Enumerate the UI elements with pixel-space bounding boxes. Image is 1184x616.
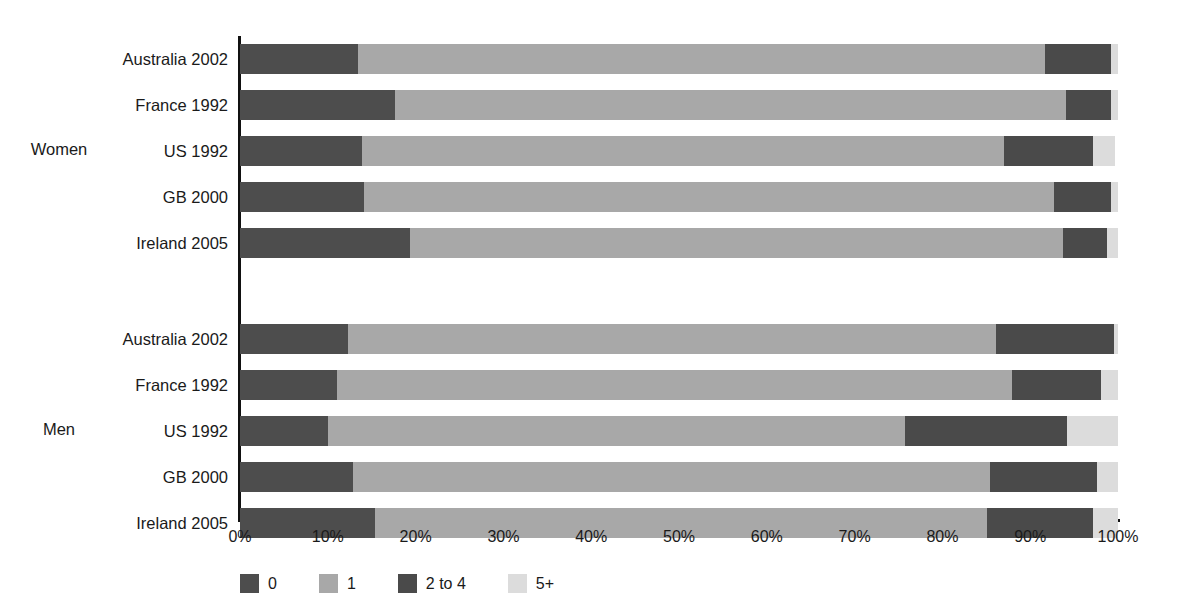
bar-segment: [240, 44, 358, 74]
bar-row: [240, 44, 1118, 74]
legend-swatch-icon: [319, 574, 338, 593]
legend-item[interactable]: 2 to 4: [398, 574, 466, 593]
legend-swatch-icon: [240, 574, 259, 593]
legend-label: 2 to 4: [426, 575, 466, 593]
bar-segment: [1066, 90, 1111, 120]
x-tick-label: 60%: [751, 528, 783, 546]
bar-segment: [1012, 370, 1102, 400]
legend-label: 1: [347, 575, 356, 593]
legend-item[interactable]: 0: [240, 574, 277, 593]
category-label: France 1992: [0, 370, 228, 400]
x-tick-label: 100%: [1098, 528, 1139, 546]
category-label: Ireland 2005: [0, 228, 228, 258]
x-tick-label: 70%: [839, 528, 871, 546]
bar-segment: [240, 370, 337, 400]
bar-segment: [395, 90, 1067, 120]
legend-item[interactable]: 1: [319, 574, 356, 593]
bar-row: [240, 462, 1118, 492]
bar-segment: [1067, 416, 1118, 446]
bar-segment: [240, 416, 328, 446]
legend-swatch-icon: [398, 574, 417, 593]
category-label: GB 2000: [0, 182, 228, 212]
chart-legend: 012 to 45+: [240, 574, 596, 593]
x-tick-label: 20%: [400, 528, 432, 546]
bar-segment: [1054, 182, 1111, 212]
bar-segment: [410, 228, 1062, 258]
category-label: Australia 2002: [0, 44, 228, 74]
bar-segment: [996, 324, 1114, 354]
bar-segment: [240, 90, 395, 120]
bar-segment: [1045, 44, 1111, 74]
category-label: US 1992: [0, 416, 228, 446]
category-label: Australia 2002: [0, 324, 228, 354]
bar-segment: [240, 136, 362, 166]
bar-segment: [362, 136, 1004, 166]
x-tick-label: 0%: [228, 528, 251, 546]
bar-segment: [1101, 370, 1118, 400]
bar-segment: [240, 508, 375, 538]
legend-item[interactable]: 5+: [508, 574, 554, 593]
bar-segment: [1097, 462, 1118, 492]
bar-segment: [1004, 136, 1093, 166]
bar-row: [240, 228, 1118, 258]
bar-segment: [240, 182, 364, 212]
bar-segment: [240, 324, 348, 354]
x-tick-label: 40%: [575, 528, 607, 546]
plot-area: [240, 36, 1118, 520]
x-tick-label: 90%: [1014, 528, 1046, 546]
bar-segment: [240, 462, 353, 492]
category-label: US 1992: [0, 136, 228, 166]
legend-label: 0: [268, 575, 277, 593]
bar-row: [240, 90, 1118, 120]
bar-segment: [1111, 182, 1118, 212]
category-label: GB 2000: [0, 462, 228, 492]
bar-row: [240, 182, 1118, 212]
category-label: Ireland 2005: [0, 508, 228, 538]
bar-segment: [337, 370, 1011, 400]
x-tick-label: 80%: [926, 528, 958, 546]
legend-label: 5+: [536, 575, 554, 593]
bar-row: [240, 370, 1118, 400]
bar-segment: [1093, 136, 1116, 166]
category-label: France 1992: [0, 90, 228, 120]
bar-segment: [1114, 324, 1118, 354]
bar-segment: [358, 44, 1045, 74]
legend-swatch-icon: [508, 574, 527, 593]
bar-segment: [1063, 228, 1107, 258]
bar-segment: [364, 182, 1054, 212]
bar-segment: [348, 324, 996, 354]
x-tick-label: 10%: [312, 528, 344, 546]
bar-segment: [905, 416, 1067, 446]
bar-row: [240, 416, 1118, 446]
bar-segment: [1111, 90, 1118, 120]
bar-segment: [1111, 44, 1118, 74]
x-tick-label: 50%: [663, 528, 695, 546]
stacked-bar-chart: WomenMen Australia 2002France 1992US 199…: [0, 0, 1184, 616]
bar-segment: [353, 462, 990, 492]
bar-segment: [1107, 228, 1118, 258]
bar-segment: [328, 416, 905, 446]
bar-row: [240, 324, 1118, 354]
bar-row: [240, 136, 1118, 166]
bar-segment: [990, 462, 1097, 492]
x-tick-label: 30%: [487, 528, 519, 546]
bar-segment: [240, 228, 410, 258]
